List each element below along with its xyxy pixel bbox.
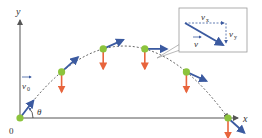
svg-text:y: y <box>234 34 237 40</box>
inset-callout <box>157 44 180 58</box>
position-point <box>58 68 65 75</box>
x-axis-label: x <box>242 113 248 124</box>
angle-label: θ <box>37 107 42 117</box>
svg-text:v: v <box>201 12 205 22</box>
svg-text:x: x <box>206 17 209 23</box>
initial-velocity-label: v 0 <box>22 77 31 92</box>
y-axis-label: y <box>15 6 21 17</box>
origin-label: 0 <box>9 126 14 136</box>
angle-arc <box>29 108 33 118</box>
position-point <box>183 68 190 75</box>
velocity-components-inset: v x v y v <box>157 8 247 58</box>
projectile-diagram: x y 0 θ v 0 v x v y v <box>0 0 262 138</box>
position-point <box>16 114 23 121</box>
svg-text:0: 0 <box>27 86 30 92</box>
position-point <box>141 45 148 52</box>
position-point <box>224 114 231 121</box>
position-point <box>100 45 107 52</box>
svg-text:v: v <box>229 29 233 39</box>
svg-text:v: v <box>194 39 198 49</box>
inset-box <box>179 8 247 52</box>
trajectory-path <box>20 46 228 118</box>
svg-text:v: v <box>22 81 26 91</box>
